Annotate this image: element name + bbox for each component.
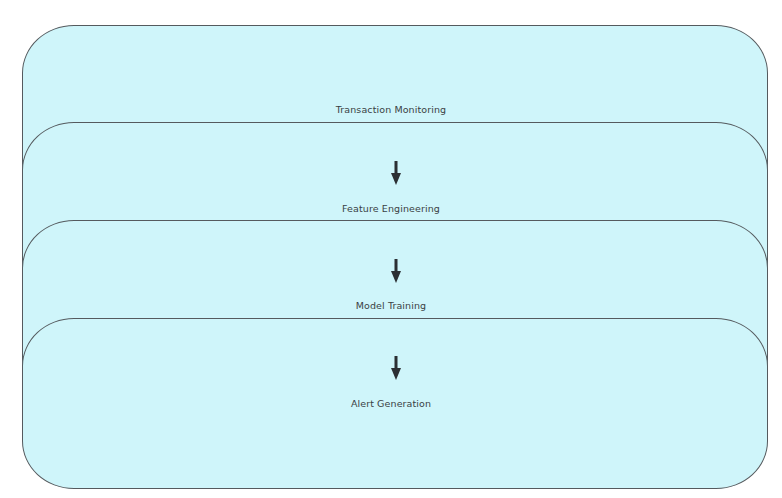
- down-arrow-icon: [390, 161, 402, 185]
- stage-label-feature-engineering: Feature Engineering: [0, 203, 782, 214]
- stage-label-model-training: Model Training: [0, 300, 782, 311]
- down-arrow-icon: [390, 356, 402, 380]
- stage-label-alert-generation: Alert Generation: [0, 398, 782, 409]
- stage-label-transaction-monitoring: Transaction Monitoring: [0, 104, 782, 115]
- flowchart-diagram: Transaction Monitoring Feature Engineeri…: [0, 0, 782, 498]
- down-arrow-icon: [390, 259, 402, 283]
